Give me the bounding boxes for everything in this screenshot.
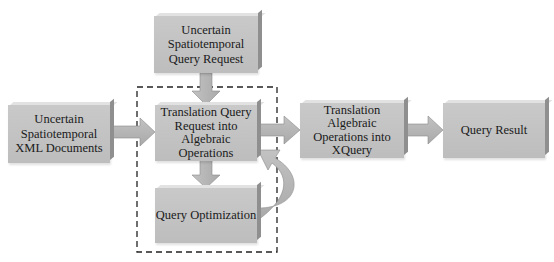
node-query-request-line-1: Uncertain xyxy=(181,23,230,37)
node-query-result: Query Result xyxy=(443,103,545,158)
arrow-request-to-translation xyxy=(192,73,220,105)
arrow-documents-to-translation xyxy=(112,118,155,146)
node-translation-line-3: Algebraic xyxy=(181,132,230,146)
node-xml-documents-line-1: Uncertain xyxy=(34,112,83,126)
node-xquery-line-4: XQuery xyxy=(332,143,372,157)
node-translation-to-algebra: Translation Query Request into Algebraic… xyxy=(155,105,257,161)
node-query-optimization: Query Optimization xyxy=(155,188,257,243)
node-xquery-line-3: Operations into xyxy=(313,130,390,144)
arrow-translation-to-xquery xyxy=(258,116,300,144)
node-translation-line-1: Translation Query xyxy=(161,105,252,119)
node-xml-documents-line-2: Spatiotemporal xyxy=(21,127,97,141)
node-translation-to-xquery: Translation Algebraic Operations into XQ… xyxy=(300,103,404,158)
arrow-xquery-to-result xyxy=(405,116,443,144)
node-query-optimization-label: Query Optimization xyxy=(156,208,256,223)
arrow-translation-to-optimization xyxy=(192,160,220,188)
node-xquery-line-1: Translation xyxy=(324,103,381,117)
node-translation-line-2: Request into xyxy=(175,119,238,133)
node-translation-line-4: Operations xyxy=(179,146,234,160)
node-query-request-line-3: Query Request xyxy=(169,52,244,66)
node-query-result-label: Query Result xyxy=(461,123,527,138)
node-query-request: Uncertain Spatiotemporal Query Request xyxy=(154,16,258,73)
node-xml-documents-line-3: XML Documents xyxy=(15,141,102,155)
node-query-request-line-2: Spatiotemporal xyxy=(168,37,244,51)
node-xml-documents: Uncertain Spatiotemporal XML Documents xyxy=(8,105,110,163)
node-xquery-line-2: Algebraic xyxy=(327,116,376,130)
